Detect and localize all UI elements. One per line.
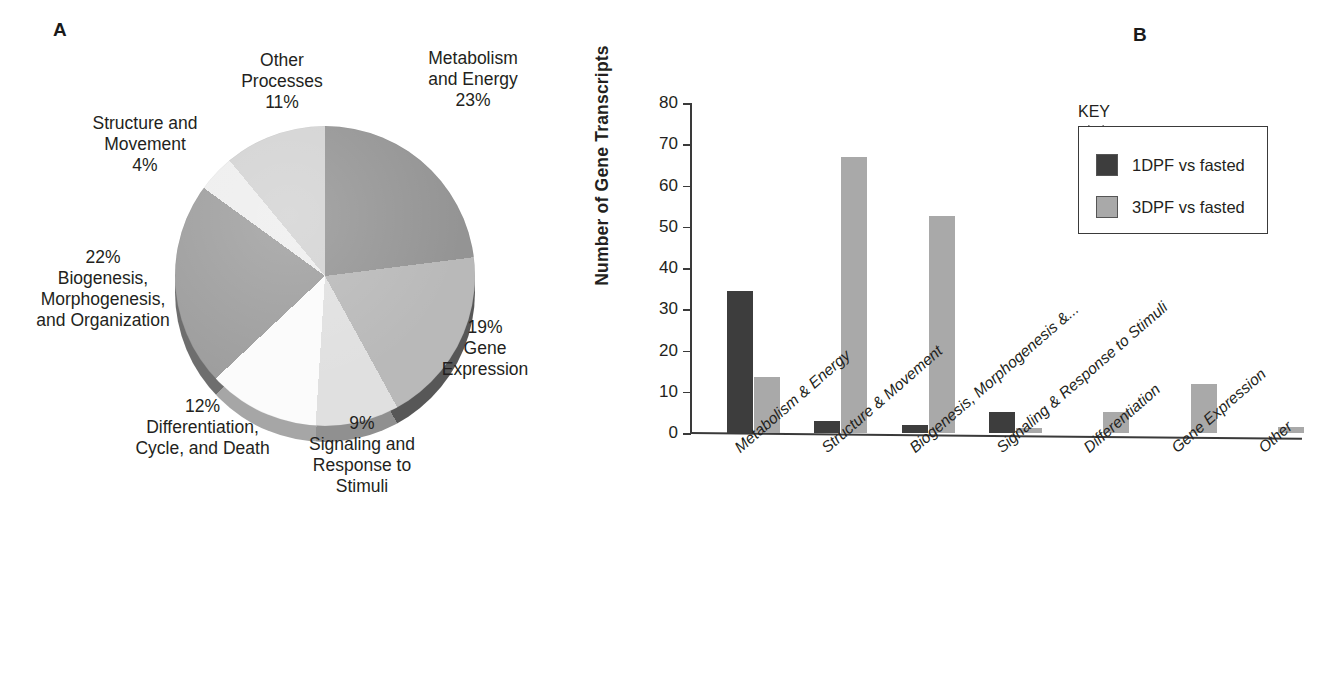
pie-label-metabolism-and-energy: Metabolism and Energy 23% <box>393 48 553 111</box>
x-axis-label-4: Differentiation <box>1080 380 1164 456</box>
y-tick-label-0: 0 <box>669 423 678 443</box>
y-tick-70 <box>683 144 691 146</box>
y-tick-label-60: 60 <box>659 176 678 196</box>
y-tick-label-40: 40 <box>659 258 678 278</box>
y-tick-60 <box>683 186 691 188</box>
y-tick-label-80: 80 <box>659 93 678 113</box>
y-axis-title: Number of Gene Transcripts <box>592 36 613 296</box>
bar-3dpf-2 <box>929 216 955 433</box>
bar-1dpf-0 <box>727 291 753 433</box>
y-tick-label-50: 50 <box>659 217 678 237</box>
pie-label-structure-and-movement: Structure and Movement 4% <box>70 113 220 176</box>
legend-label-3dpf: 3DPF vs fasted <box>1132 198 1245 217</box>
pie-chart <box>175 126 475 426</box>
pie-label-gene-expression: 19% Gene Expression <box>420 317 550 380</box>
legend-item-1dpf[interactable]: 1DPF vs fasted <box>1096 154 1245 176</box>
pie-label-biogenesis-morphogenesis-and-organization: 22% Biogenesis, Morphogenesis, and Organ… <box>8 247 198 331</box>
x-axis-label-3: Signaling & Response to Stimuli <box>993 298 1171 456</box>
y-tick-30 <box>683 309 691 311</box>
y-tick-label-30: 30 <box>659 299 678 319</box>
y-tick-50 <box>683 227 691 229</box>
x-axis-line <box>690 432 1302 439</box>
legend-label-1dpf: 1DPF vs fasted <box>1132 156 1245 175</box>
y-tick-10 <box>683 392 691 394</box>
y-tick-label-20: 20 <box>659 341 678 361</box>
y-tick-40 <box>683 268 691 270</box>
panel-a-pie-chart: A Metabolism and Energy 23% 19% Gene Exp… <box>0 0 560 600</box>
key-title: KEY <box>1078 103 1110 121</box>
panel-b-bar-chart: B Number of Gene Transcripts 01020304050… <box>560 0 1320 673</box>
panel-b-letter: B <box>1133 24 1147 46</box>
y-tick-0 <box>683 433 691 435</box>
y-tick-label-70: 70 <box>659 134 678 154</box>
bar-3dpf-1 <box>841 157 867 433</box>
y-tick-20 <box>683 351 691 353</box>
panel-a-letter: A <box>53 19 67 41</box>
y-tick-label-10: 10 <box>659 382 678 402</box>
pie-label-differentiation-cycle-and-death: 12% Differentiation, Cycle, and Death <box>95 396 310 459</box>
y-tick-80 <box>683 103 691 105</box>
pie-slices <box>175 126 475 426</box>
legend-swatch-3dpf <box>1096 196 1118 218</box>
figure-root: A Metabolism and Energy 23% 19% Gene Exp… <box>0 0 1320 673</box>
legend-swatch-1dpf <box>1096 154 1118 176</box>
legend-item-3dpf[interactable]: 3DPF vs fasted <box>1096 196 1245 218</box>
pie-label-other-processes: Other Processes 11% <box>222 50 342 113</box>
